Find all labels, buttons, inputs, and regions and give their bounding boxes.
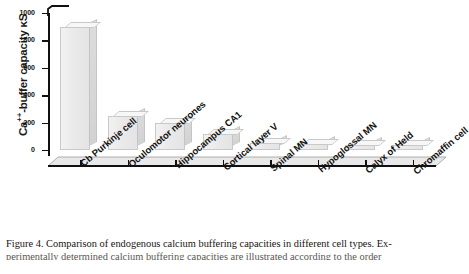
caption-line-2: perimentally determined calcium bufferin… (6, 251, 447, 260)
caption-line-1: Figure 4. Comparison of endogenous calci… (6, 238, 392, 249)
y-axis-label: Ca++-buffer capacity κS (15, 0, 29, 150)
figure-panel: Ca++-buffer capacity κS 0200400600800100… (0, 0, 452, 232)
bar-1 (60, 27, 90, 150)
bar-face (60, 27, 90, 150)
y-tick-label-1000: 1000 (19, 9, 35, 16)
y-tick-label-400: 400 (23, 92, 35, 99)
x-axis-category-labels: Cb Purkinje cellOculomotor neuronesHippo… (0, 158, 452, 232)
bar-side (89, 19, 97, 146)
y-tick-label-0: 0 (31, 146, 35, 153)
y-tick-label-200: 200 (23, 119, 35, 126)
figure-caption: Figure 4. Comparison of endogenous calci… (6, 238, 447, 260)
y-tick-label-800: 800 (23, 37, 35, 44)
y-tick-label-600: 600 (23, 64, 35, 71)
